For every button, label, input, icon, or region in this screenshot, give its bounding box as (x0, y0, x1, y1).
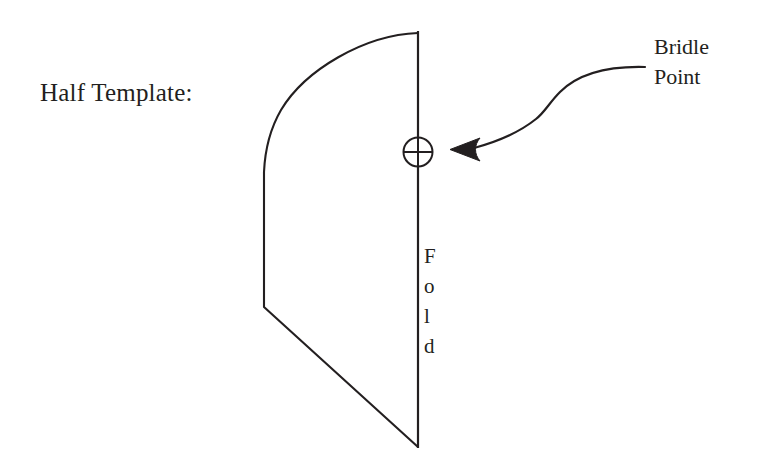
half-template-diagram (0, 0, 757, 469)
bridle-point-label-line2: Point (654, 66, 700, 88)
fold-letter: l (424, 306, 430, 325)
bridle-point-marker (404, 138, 433, 167)
diagram-canvas: Half Template: Bridle Point F o l d (0, 0, 757, 469)
fold-label: F o l d (424, 246, 448, 366)
half-template-label: Half Template: (40, 80, 193, 105)
fold-letter: o (424, 276, 435, 295)
bridle-point-label-line1: Bridle (654, 36, 709, 58)
bridle-point-pointer (450, 67, 645, 161)
fold-letter: d (424, 336, 435, 355)
fold-letter: F (424, 246, 436, 265)
pointer-curve (474, 67, 645, 148)
pointer-arrowhead-icon (450, 138, 480, 161)
half-template-outline (264, 33, 418, 447)
